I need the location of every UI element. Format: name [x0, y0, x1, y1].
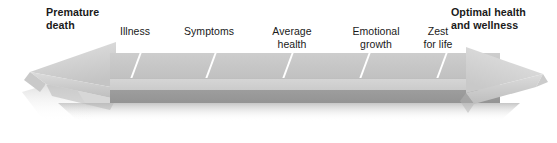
endpoint-label-premature-death: Premature death: [46, 6, 99, 31]
endpoint-label-optimal-health-and-wellness: Optimal health and wellness: [451, 6, 526, 31]
stage-label-symptoms: Symptoms: [166, 25, 252, 38]
stage-label-average-health: Average health: [256, 25, 328, 50]
illness-wellness-continuum-diagram: Premature death Illness Symptoms Average…: [0, 0, 557, 143]
stage-label-illness: Illness: [100, 25, 170, 38]
arrow-body: [110, 53, 500, 103]
stage-label-emotional-growth: Emotional growth: [336, 25, 416, 50]
